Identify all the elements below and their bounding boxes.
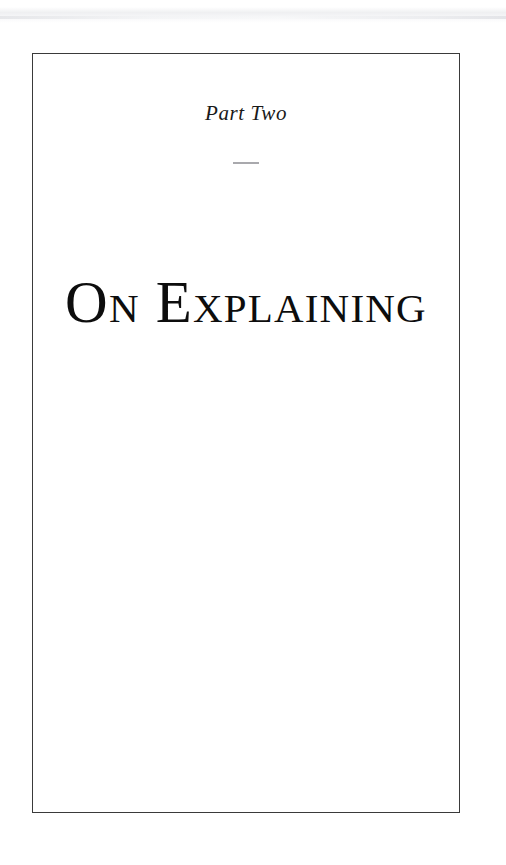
scan-artifact-band [0, 7, 506, 23]
page-body-blank-area [33, 354, 459, 812]
book-page: Part Two On Explaining [0, 0, 506, 865]
divider-rule [233, 162, 259, 164]
part-number-label: Part Two [33, 102, 459, 125]
page-border-frame: Part Two On Explaining [32, 53, 460, 813]
part-title: On Explaining [33, 272, 459, 334]
frame-content-area: Part Two On Explaining [33, 54, 459, 812]
